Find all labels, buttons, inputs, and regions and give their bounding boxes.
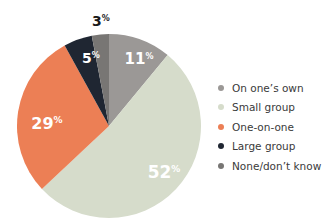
legend-dot <box>218 104 224 110</box>
legend-item-one-on-one: One-on-one <box>218 117 321 137</box>
legend-item-large-group: Large group <box>218 137 321 157</box>
legend-item-small-group: Small group <box>218 98 321 118</box>
legend-dot <box>218 163 224 169</box>
legend-dot <box>218 124 224 130</box>
legend-dot <box>218 143 224 149</box>
legend-item-none-dont-know: None/don’t know <box>218 156 321 176</box>
legend-item-on-ones-own: On one’s own <box>218 78 321 98</box>
legend: On one’s own Small group One-on-one Larg… <box>218 78 321 176</box>
slice-label: 3% <box>92 13 110 29</box>
legend-dot <box>218 85 224 91</box>
